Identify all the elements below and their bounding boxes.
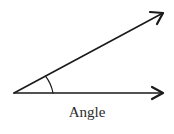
- angle-arc: [46, 76, 54, 93]
- upper-arrowhead-icon: [150, 12, 163, 24]
- upper-ray: [14, 13, 163, 93]
- angle-label: Angle: [0, 104, 174, 121]
